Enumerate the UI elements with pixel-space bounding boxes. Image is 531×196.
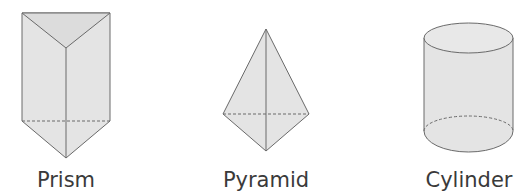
pyramid-figure [223,29,309,151]
cylinder-label: Cylinder [409,168,529,192]
solids-diagram [0,0,531,196]
cylinder-figure [424,23,513,152]
pyramid-label: Pyramid [206,168,326,192]
prism-label: Prism [6,168,126,192]
prism-figure [22,13,110,158]
